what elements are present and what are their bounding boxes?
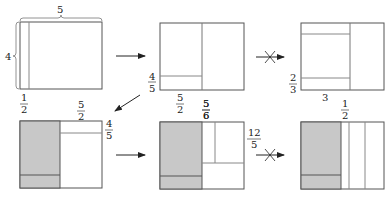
label-left-num: 4 <box>149 71 155 82</box>
panel-3: 2 3 3 <box>289 23 384 103</box>
label-bottom: 3 <box>322 92 328 103</box>
label-right-den: 5 <box>251 139 257 150</box>
panel-2: 4 5 5 2 5 6 <box>148 23 244 121</box>
panel-1: 5 4 1 2 <box>5 4 102 115</box>
label-left-num: 2 <box>290 72 296 83</box>
label-top-den: 6 <box>203 110 209 121</box>
forbidden-arrow-icon <box>256 149 284 161</box>
label-left: 4 <box>5 51 11 62</box>
top-brace <box>20 15 102 21</box>
label-bottom1-den: 2 <box>177 104 183 115</box>
label-right-num: 4 <box>106 118 112 129</box>
label-bottom-den: 2 <box>21 104 27 115</box>
label-right-den: 5 <box>106 130 112 141</box>
label-left-den: 5 <box>149 83 155 94</box>
label-top-num: 5 <box>78 99 84 110</box>
left-brace <box>13 22 19 89</box>
label-left-den: 3 <box>290 84 296 95</box>
panel-6: 1 2 <box>301 98 384 189</box>
panel-5: 5 6 12 5 <box>160 98 261 189</box>
arrow-diagonal-icon <box>115 95 140 111</box>
rectangle-cutting-diagram: 5 4 1 2 4 5 5 2 5 6 2 3 3 <box>0 0 392 199</box>
label-top-num: 1 <box>342 98 348 109</box>
label-top: 5 <box>57 4 63 15</box>
label-top-den: 2 <box>78 111 84 122</box>
label-top-den: 2 <box>342 110 348 121</box>
label-right-num: 12 <box>248 127 261 138</box>
forbidden-arrow-icon <box>256 51 284 63</box>
label-bottom1-num: 5 <box>177 92 183 103</box>
panel-4: 5 2 4 5 <box>20 99 113 188</box>
label-bottom-num: 1 <box>21 92 27 103</box>
label-top-num: 5 <box>203 98 209 109</box>
